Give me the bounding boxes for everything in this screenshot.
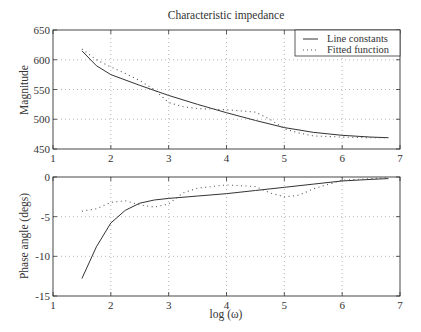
x-tick-label: 5 bbox=[282, 152, 288, 164]
x-tick-label: 3 bbox=[166, 299, 172, 311]
legend-label-fitted-function: Fitted function bbox=[327, 44, 390, 55]
x-tick-label: 7 bbox=[397, 152, 403, 164]
axes-frame bbox=[53, 177, 400, 296]
x-tick-label: 1 bbox=[50, 299, 56, 311]
y-tick-label: 600 bbox=[34, 54, 51, 66]
y-tick-label: 450 bbox=[34, 143, 51, 155]
legend-label-line-constants: Line constants bbox=[327, 33, 388, 44]
chart-title: Characteristic impedance bbox=[168, 9, 285, 22]
x-tick-label: 7 bbox=[397, 299, 403, 311]
phase-plot: 1234567-15-10-50 bbox=[35, 171, 403, 311]
y-tick-label: 650 bbox=[34, 24, 51, 36]
x-tick-label: 6 bbox=[339, 152, 345, 164]
x-axis-label: log (ω) bbox=[210, 308, 243, 321]
legend: Line constants Fitted function bbox=[295, 30, 400, 56]
y-tick-label: 0 bbox=[45, 171, 51, 183]
x-tick-label: 6 bbox=[339, 299, 345, 311]
y-tick-label: -15 bbox=[35, 290, 50, 302]
y-tick-label: -10 bbox=[35, 250, 50, 262]
fitted-function-series bbox=[82, 178, 389, 211]
x-tick-label: 3 bbox=[166, 152, 172, 164]
phase-axis-label: Phase angle (degs) bbox=[18, 193, 31, 279]
x-tick-label: 4 bbox=[224, 152, 230, 164]
y-tick-label: 550 bbox=[34, 84, 51, 96]
x-tick-label: 2 bbox=[108, 152, 114, 164]
magnitude-axis-label: Magnitude bbox=[18, 65, 31, 115]
x-tick-label: 1 bbox=[50, 152, 56, 164]
y-tick-label: 500 bbox=[34, 113, 51, 125]
x-tick-label: 5 bbox=[282, 299, 288, 311]
x-tick-label: 2 bbox=[108, 299, 114, 311]
chart-figure: 1234567450500550600650 1234567-15-10-50 … bbox=[0, 0, 421, 332]
y-tick-label: -5 bbox=[41, 211, 51, 223]
